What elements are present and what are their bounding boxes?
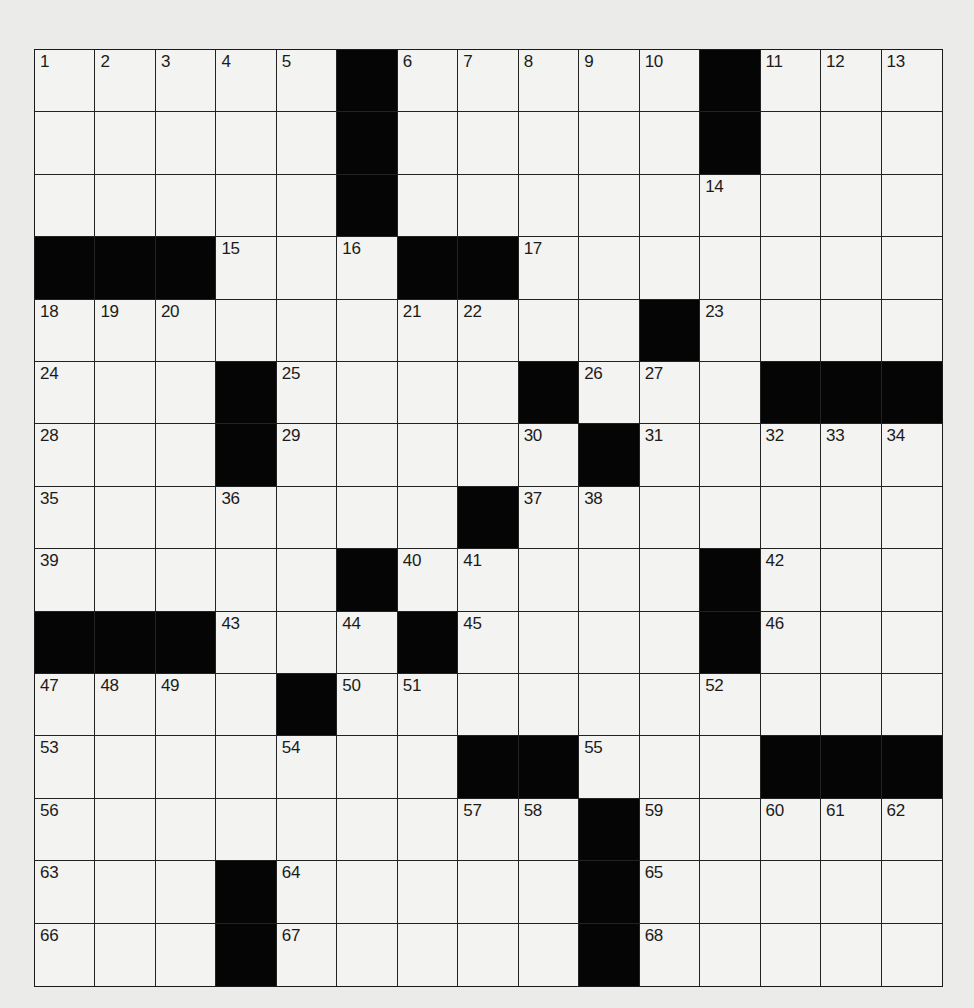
grid-cell[interactable]	[398, 924, 458, 986]
grid-cell[interactable]	[337, 487, 397, 549]
grid-cell[interactable]: 57	[458, 799, 518, 861]
grid-cell[interactable]	[579, 175, 639, 237]
grid-cell[interactable]: 49	[156, 674, 216, 736]
grid-cell[interactable]	[277, 549, 337, 611]
grid-cell[interactable]	[640, 549, 700, 611]
grid-cell[interactable]	[35, 175, 95, 237]
grid-cell[interactable]	[95, 112, 155, 174]
grid-cell[interactable]	[458, 674, 518, 736]
grid-cell[interactable]	[821, 612, 881, 674]
grid-cell[interactable]	[337, 424, 397, 486]
grid-cell[interactable]: 23	[700, 300, 760, 362]
grid-cell[interactable]	[398, 424, 458, 486]
grid-cell[interactable]	[156, 175, 216, 237]
grid-cell[interactable]	[882, 674, 942, 736]
grid-cell[interactable]	[95, 175, 155, 237]
grid-cell[interactable]	[761, 300, 821, 362]
grid-cell[interactable]: 18	[35, 300, 95, 362]
grid-cell[interactable]: 26	[579, 362, 639, 424]
grid-cell[interactable]	[761, 175, 821, 237]
grid-cell[interactable]	[821, 924, 881, 986]
grid-cell[interactable]	[95, 861, 155, 923]
grid-cell[interactable]	[821, 674, 881, 736]
grid-cell[interactable]	[337, 300, 397, 362]
grid-cell[interactable]	[458, 924, 518, 986]
grid-cell[interactable]	[882, 487, 942, 549]
grid-cell[interactable]: 20	[156, 300, 216, 362]
grid-cell[interactable]: 32	[761, 424, 821, 486]
grid-cell[interactable]: 29	[277, 424, 337, 486]
grid-cell[interactable]	[277, 612, 337, 674]
grid-cell[interactable]: 15	[216, 237, 276, 299]
grid-cell[interactable]: 31	[640, 424, 700, 486]
grid-cell[interactable]	[156, 487, 216, 549]
grid-cell[interactable]	[216, 799, 276, 861]
grid-cell[interactable]	[640, 175, 700, 237]
grid-cell[interactable]: 44	[337, 612, 397, 674]
grid-cell[interactable]: 13	[882, 50, 942, 112]
grid-cell[interactable]	[579, 112, 639, 174]
grid-cell[interactable]	[882, 237, 942, 299]
grid-cell[interactable]: 60	[761, 799, 821, 861]
grid-cell[interactable]: 27	[640, 362, 700, 424]
grid-cell[interactable]: 41	[458, 549, 518, 611]
grid-cell[interactable]	[337, 799, 397, 861]
grid-cell[interactable]	[821, 549, 881, 611]
grid-cell[interactable]	[277, 112, 337, 174]
grid-cell[interactable]	[640, 736, 700, 798]
grid-cell[interactable]: 64	[277, 861, 337, 923]
grid-cell[interactable]	[95, 736, 155, 798]
grid-cell[interactable]	[700, 237, 760, 299]
grid-cell[interactable]	[882, 549, 942, 611]
grid-cell[interactable]	[882, 861, 942, 923]
grid-cell[interactable]	[95, 424, 155, 486]
grid-cell[interactable]: 65	[640, 861, 700, 923]
grid-cell[interactable]	[882, 112, 942, 174]
grid-cell[interactable]	[398, 362, 458, 424]
grid-cell[interactable]	[640, 237, 700, 299]
grid-cell[interactable]: 48	[95, 674, 155, 736]
grid-cell[interactable]	[640, 487, 700, 549]
grid-cell[interactable]: 52	[700, 674, 760, 736]
grid-cell[interactable]	[156, 924, 216, 986]
grid-cell[interactable]: 59	[640, 799, 700, 861]
grid-cell[interactable]: 21	[398, 300, 458, 362]
grid-cell[interactable]	[156, 424, 216, 486]
grid-cell[interactable]	[277, 300, 337, 362]
grid-cell[interactable]: 33	[821, 424, 881, 486]
grid-cell[interactable]: 63	[35, 861, 95, 923]
grid-cell[interactable]: 40	[398, 549, 458, 611]
grid-cell[interactable]	[95, 924, 155, 986]
grid-cell[interactable]	[640, 112, 700, 174]
grid-cell[interactable]: 53	[35, 736, 95, 798]
grid-cell[interactable]	[700, 799, 760, 861]
grid-cell[interactable]	[398, 799, 458, 861]
grid-cell[interactable]	[821, 112, 881, 174]
grid-cell[interactable]	[337, 861, 397, 923]
grid-cell[interactable]: 19	[95, 300, 155, 362]
grid-cell[interactable]	[882, 300, 942, 362]
grid-cell[interactable]	[156, 112, 216, 174]
grid-cell[interactable]	[458, 362, 518, 424]
grid-cell[interactable]	[579, 674, 639, 736]
grid-cell[interactable]	[277, 487, 337, 549]
grid-cell[interactable]	[216, 736, 276, 798]
grid-cell[interactable]	[640, 674, 700, 736]
grid-cell[interactable]	[579, 549, 639, 611]
grid-cell[interactable]	[337, 924, 397, 986]
grid-cell[interactable]	[579, 237, 639, 299]
grid-cell[interactable]: 67	[277, 924, 337, 986]
grid-cell[interactable]: 66	[35, 924, 95, 986]
grid-cell[interactable]	[156, 362, 216, 424]
grid-cell[interactable]	[337, 362, 397, 424]
grid-cell[interactable]	[398, 175, 458, 237]
grid-cell[interactable]	[882, 612, 942, 674]
grid-cell[interactable]: 50	[337, 674, 397, 736]
grid-cell[interactable]: 9	[579, 50, 639, 112]
grid-cell[interactable]: 1	[35, 50, 95, 112]
grid-cell[interactable]	[821, 237, 881, 299]
grid-cell[interactable]	[156, 861, 216, 923]
grid-cell[interactable]	[761, 924, 821, 986]
grid-cell[interactable]: 55	[579, 736, 639, 798]
grid-cell[interactable]	[458, 175, 518, 237]
